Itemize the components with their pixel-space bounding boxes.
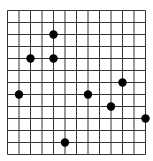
grid-point [118, 78, 126, 86]
dot-grid-diagram [0, 0, 153, 161]
grid-point [84, 90, 92, 98]
grid-point [61, 138, 69, 146]
grid-point [26, 54, 34, 62]
grid-point [49, 54, 57, 62]
grid-points [15, 30, 150, 146]
grid-point [141, 114, 149, 122]
grid-point [15, 90, 23, 98]
grid-point [49, 30, 57, 38]
grid-point [107, 102, 115, 110]
